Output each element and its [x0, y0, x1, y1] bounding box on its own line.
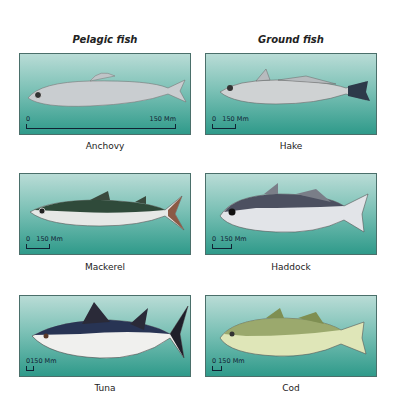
fish-panel-cod: 0 150 Mm	[205, 295, 377, 377]
scale-bar: 0 150 Mm	[212, 115, 249, 129]
fish-panel-anchovy: 0150 Mm	[19, 53, 191, 135]
column-title-pelagic: Pelagic fish	[19, 34, 191, 45]
fish-panel-mackerel: 0 150 Mm	[19, 173, 191, 255]
fish-panel-tuna: 0150 Mm	[19, 295, 191, 377]
scale-bar: 0 150 Mm	[26, 235, 63, 249]
scale-bar: 0 150 Mm	[212, 235, 247, 249]
scale-bar: 0 150 Mm	[212, 357, 245, 371]
fish-panel-haddock: 0 150 Mm	[205, 173, 377, 255]
fish-panel-hake: 0 150 Mm	[205, 53, 377, 135]
scale-bar: 0150 Mm	[26, 357, 57, 371]
fish-label: Mackerel	[19, 262, 191, 272]
fish-label: Haddock	[205, 262, 377, 272]
scale-bar: 0150 Mm	[26, 115, 184, 129]
column-title-ground: Ground fish	[205, 34, 377, 45]
fish-label: Tuna	[19, 383, 191, 393]
fish-label: Anchovy	[19, 141, 191, 151]
fish-label: Cod	[205, 383, 377, 393]
fish-label: Hake	[205, 141, 377, 151]
